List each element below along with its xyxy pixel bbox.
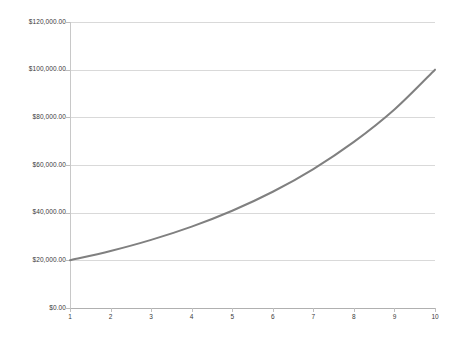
y-axis-tick-mark [65,70,70,71]
y-axis-tick-label: $60,000.00 [32,162,66,169]
x-axis-tick-label: 9 [393,314,397,321]
y-axis-tick-label: $0.00 [49,305,66,312]
x-axis-tick-mark [354,308,355,312]
y-axis-tick-mark [65,165,70,166]
plot-area [70,22,435,308]
x-axis-tick-label: 7 [312,314,316,321]
gridline [70,22,435,23]
gridline [70,117,435,118]
y-axis-labels: $0.00$20,000.00$40,000.00$60,000.00$80,0… [0,0,66,342]
x-axis-tick-label: 6 [271,314,275,321]
y-axis-line [70,22,71,308]
chart-container: $0.00$20,000.00$40,000.00$60,000.00$80,0… [0,0,462,342]
x-axis-tick-label: 2 [109,314,113,321]
y-axis-tick-label: $80,000.00 [32,114,66,121]
y-axis-tick-label: $120,000.00 [29,19,66,26]
x-axis-tick-mark [313,308,314,312]
x-axis-tick-mark [70,308,71,312]
x-axis-tick-mark [273,308,274,312]
y-axis-tick-mark [65,117,70,118]
x-axis-tick-label: 1 [68,314,72,321]
y-axis-tick-mark [65,22,70,23]
y-axis-tick-mark [65,260,70,261]
x-axis-tick-label: 4 [190,314,194,321]
y-axis-tick-mark [65,213,70,214]
x-axis-tick-label: 3 [149,314,153,321]
gridline [70,70,435,71]
gridline [70,213,435,214]
x-axis-tick-label: 5 [230,314,234,321]
x-axis-tick-mark [394,308,395,312]
x-axis-tick-mark [232,308,233,312]
x-axis-tick-mark [151,308,152,312]
gridline [70,165,435,166]
y-axis-tick-label: $20,000.00 [32,257,66,264]
x-axis-tick-mark [192,308,193,312]
y-axis-tick-label: $100,000.00 [29,66,66,73]
y-axis-tick-label: $40,000.00 [32,209,66,216]
x-axis-tick-label: 10 [431,314,438,321]
x-axis-tick-mark [111,308,112,312]
x-axis-line [70,308,435,309]
x-axis-tick-mark [435,308,436,312]
gridline [70,260,435,261]
x-axis-tick-label: 8 [352,314,356,321]
